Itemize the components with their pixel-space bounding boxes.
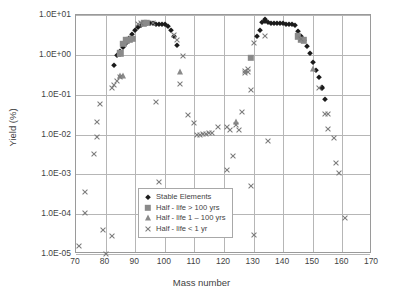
data-point-x [176, 80, 183, 87]
data-point-diamond [295, 29, 300, 34]
data-point-diamond [316, 75, 321, 80]
data-point-diamond [269, 20, 274, 25]
data-point-x [241, 69, 248, 76]
y-tick-label-1.0E-04: 1.0E-04 [0, 208, 71, 218]
data-point-diamond [156, 21, 161, 26]
data-point-x [262, 32, 269, 39]
data-point-diamond [168, 27, 173, 32]
data-point-x [75, 242, 82, 249]
data-point-diamond [292, 23, 297, 28]
y-tick-label-1.0E+01: 1.0E+01 [0, 9, 71, 19]
data-point-diamond [136, 24, 141, 29]
gridline-y-1.0E+01 [76, 15, 370, 16]
data-point-diamond [322, 96, 327, 101]
data-point-diamond [275, 20, 280, 25]
data-point-diamond [319, 84, 324, 89]
gridline-y-1.0E+00 [76, 55, 370, 56]
data-point-x [333, 160, 340, 167]
data-point-triangle [117, 73, 123, 79]
data-point-diamond [313, 67, 318, 72]
legend-item-0: Stable Elements [143, 192, 226, 203]
gridline-x-140 [283, 15, 284, 252]
data-point-x [185, 112, 192, 119]
x-tick-label-90: 90 [119, 256, 149, 266]
data-point-square [295, 33, 301, 39]
data-point-x [244, 66, 251, 73]
legend-item-1: Half - life > 100 yrs [143, 203, 226, 214]
data-point-diamond [174, 42, 179, 47]
data-point-diamond [142, 21, 147, 26]
data-point-diamond [118, 48, 123, 53]
data-point-diamond [127, 36, 132, 41]
data-point-x [149, 19, 156, 26]
legend-item-label: Stable Elements [156, 192, 211, 203]
square-marker-icon [143, 203, 154, 212]
gridline-x-90 [135, 15, 136, 252]
data-point-square [301, 37, 307, 43]
data-point-x [238, 109, 245, 116]
data-point-x [321, 110, 328, 117]
gridline-x-80 [106, 15, 107, 252]
data-point-diamond [257, 27, 262, 32]
x-tick-label-110: 110 [178, 256, 208, 266]
legend-item-label: Half - life > 100 yrs [156, 203, 220, 214]
data-point-square [123, 37, 129, 43]
gridline-y-1.0E-05 [76, 254, 370, 255]
data-point-x [81, 189, 88, 196]
data-point-triangle [177, 68, 183, 74]
data-point-diamond [112, 63, 117, 68]
data-point-x [229, 152, 236, 159]
gridline-x-150 [313, 15, 314, 252]
data-point-x [155, 179, 162, 186]
legend-item-label: Half - life < 1 yr [156, 224, 207, 235]
data-point-square [144, 20, 150, 26]
data-point-x [179, 53, 186, 60]
data-point-x [173, 36, 180, 43]
data-point-diamond [304, 43, 309, 48]
triangle-marker-icon [143, 214, 154, 223]
data-point-triangle [120, 73, 126, 79]
legend-item-label: Half - life 1 – 100 yrs [156, 213, 226, 224]
data-point-x [244, 69, 251, 76]
data-point-diamond [147, 21, 152, 26]
x-axis-title: Mass number [0, 277, 403, 288]
data-point-diamond [319, 85, 324, 90]
data-point-triangle [233, 118, 239, 124]
x-marker-icon [143, 224, 154, 233]
data-point-x [90, 150, 97, 157]
data-point-x [93, 118, 100, 125]
data-point-diamond [263, 17, 268, 22]
x-tick-label-170: 170 [356, 256, 386, 266]
data-point-x [96, 101, 103, 108]
data-point-diamond [121, 45, 126, 50]
x-tick-label-140: 140 [267, 256, 297, 266]
data-point-x [315, 84, 322, 91]
data-point-x [108, 84, 115, 91]
data-point-square [120, 41, 126, 47]
data-point-x [114, 78, 121, 85]
data-point-square [298, 36, 304, 42]
data-point-diamond [165, 24, 170, 29]
data-point-diamond [298, 33, 303, 38]
x-tick-label-130: 130 [238, 256, 268, 266]
data-point-x [138, 20, 145, 27]
y-axis-title: Yield (%) [7, 83, 18, 173]
data-point-diamond [266, 20, 271, 25]
data-point-x [324, 111, 331, 118]
gridline-y-1.0E-03 [76, 174, 370, 175]
data-point-x [241, 67, 248, 74]
data-point-diamond [284, 21, 289, 26]
gridline-x-160 [342, 15, 343, 252]
data-point-square [141, 20, 147, 26]
gridline-y-1.0E-01 [76, 95, 370, 96]
legend-item-2: Half - life 1 – 100 yrs [143, 213, 226, 224]
fission-yield-chart: 1.0E-051.0E-041.0E-031.0E-021.0E-011.0E+… [0, 0, 403, 302]
legend-item-3: Half - life < 1 yr [143, 224, 226, 235]
data-point-x [330, 135, 337, 142]
gridline-x-130 [254, 15, 255, 252]
x-tick-label-150: 150 [297, 256, 327, 266]
data-point-diamond [139, 22, 144, 27]
x-tick-label-100: 100 [149, 256, 179, 266]
data-point-diamond [263, 19, 268, 24]
data-point-diamond [171, 33, 176, 38]
